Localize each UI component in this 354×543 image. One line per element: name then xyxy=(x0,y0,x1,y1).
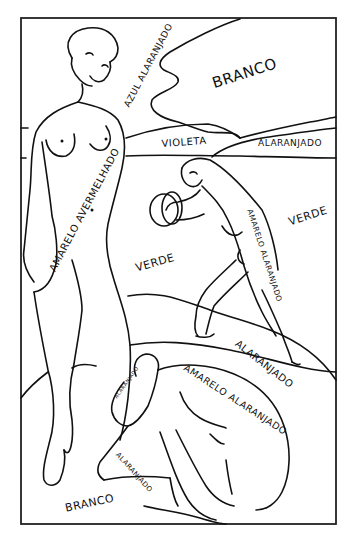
dancer-eye xyxy=(190,172,197,174)
standing-woman-leg-right xyxy=(64,260,82,453)
standing-woman-neck xyxy=(78,84,83,102)
standing-woman-leg-left xyxy=(34,292,65,485)
bent-figure-leg-bottom xyxy=(144,506,226,524)
standing-woman-navel xyxy=(91,209,94,212)
dancer-face xyxy=(181,168,202,187)
bent-figure-knee xyxy=(210,434,224,444)
standing-woman-nipple-right xyxy=(105,138,108,141)
dancer-foot-back xyxy=(292,362,300,365)
violeta-hill-bottom xyxy=(126,155,336,158)
standing-woman-nipple-left xyxy=(61,140,64,143)
standing-woman-eye-2 xyxy=(102,65,108,67)
standing-woman-breast-left xyxy=(46,134,75,156)
standing-woman-face xyxy=(71,58,110,86)
dancer-leg-front-2 xyxy=(206,272,248,334)
bent-figure-belly xyxy=(226,460,232,494)
ground-left xyxy=(21,372,48,398)
bent-figure-head xyxy=(134,354,158,376)
standing-woman-hair xyxy=(68,28,118,62)
label-alaranjado-hill: ALARANJADO xyxy=(258,138,322,148)
standing-woman-eye xyxy=(86,53,93,55)
standing-woman-knee xyxy=(72,365,96,368)
standing-woman-torso-left xyxy=(24,102,78,282)
bent-figure-arm xyxy=(98,426,128,480)
bent-figure-shoulder xyxy=(180,392,226,428)
dancer-leg-front xyxy=(195,260,236,336)
dancer-arm xyxy=(166,190,204,220)
bent-figure-thigh xyxy=(170,478,178,506)
